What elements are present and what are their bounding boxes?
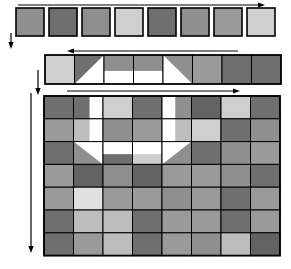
- top-square-2[interactable]: [49, 8, 77, 36]
- grid-cell-r2-c2-left: [74, 119, 90, 142]
- grid-cell-r6-c5: [162, 210, 192, 233]
- grid-cell-r3-c1: [44, 142, 74, 165]
- grid-right-arrow-head: [233, 88, 240, 93]
- grid-cell-r5-c3: [103, 187, 133, 210]
- top-square-3[interactable]: [82, 8, 110, 36]
- grid-cell-r1-c2-right: [90, 96, 103, 119]
- grid-cell-r2-c6: [192, 119, 222, 142]
- grid-cell-r7-c8: [251, 233, 281, 256]
- grid-cell-r2-c2-right: [90, 119, 103, 142]
- grid-cell-r3-c7: [221, 142, 251, 165]
- strip-down-arrow: [35, 70, 40, 95]
- grid-cell-r4-c1: [44, 164, 74, 187]
- grid-cell-r7-c6: [192, 233, 222, 256]
- grid-cell-r3-c4-top: [133, 142, 163, 155]
- grid-cell-r1-c7: [221, 96, 251, 119]
- grid-cell-r4-c3: [103, 164, 133, 187]
- grid-cell-r6-c1: [44, 210, 74, 233]
- grid-cell-r6-c4: [133, 210, 163, 233]
- grid-down-arrow-head: [28, 246, 33, 253]
- grid-cell-r6-c6: [192, 210, 222, 233]
- strip-down-arrow-head: [35, 88, 40, 95]
- grid-cell-r7-c3: [103, 233, 133, 256]
- grid-cell-r2-c4: [133, 119, 163, 142]
- grid-cell-r2-c5-right: [175, 119, 191, 142]
- strip-cell-row: [45, 55, 281, 84]
- top-right-arrow: [18, 2, 265, 7]
- grid-cell-r6-c7: [221, 210, 251, 233]
- top-square-row: [16, 8, 275, 36]
- grid-cell-r4-c5: [162, 164, 192, 187]
- grid-cell-r5-c5: [162, 187, 192, 210]
- grid-cell-r3-c6: [192, 142, 222, 165]
- grid-right-arrow: [67, 88, 240, 93]
- grid-cell-r2-c3: [103, 119, 133, 142]
- grid-cell-r1-c2-left: [74, 96, 90, 119]
- grid-cell-r4-c8: [251, 164, 281, 187]
- grid-cell-r3-c4-bot: [133, 154, 163, 164]
- grid-down-arrow: [28, 93, 33, 253]
- top-square-1[interactable]: [16, 8, 44, 36]
- grid-cell-r2-c1: [44, 119, 74, 142]
- grid-cell-r1-c5-right: [175, 96, 191, 119]
- pixel-grid-svg: [0, 0, 291, 269]
- main-pixel-grid: [44, 96, 280, 256]
- grid-cell-r4-c4: [133, 164, 163, 187]
- grid-cell-r1-c3: [103, 96, 133, 119]
- top-square-5[interactable]: [148, 8, 176, 36]
- grid-cell-r6-c3: [103, 210, 133, 233]
- grid-cell-r1-c4: [133, 96, 163, 119]
- grid-cell-r2-c8: [251, 119, 281, 142]
- grid-cell-r1-c1: [44, 96, 74, 119]
- grid-cell-r6-c2: [74, 210, 104, 233]
- strip-left-arrow-head: [67, 48, 74, 53]
- top-square-7[interactable]: [214, 8, 242, 36]
- grid-cell-r5-c4: [133, 187, 163, 210]
- strip-cell-8: [252, 55, 282, 84]
- grid-cell-r7-c7: [221, 233, 251, 256]
- top-down-arrow: [8, 33, 13, 49]
- grid-cell-r5-c7: [221, 187, 251, 210]
- top-down-arrow-head: [8, 42, 13, 49]
- grid-cell-r6-c8: [251, 210, 281, 233]
- grid-cell-r5-c1: [44, 187, 74, 210]
- top-square-8[interactable]: [247, 8, 275, 36]
- grid-cell-r4-c2: [74, 164, 104, 187]
- grid-cell-r5-c2: [74, 187, 104, 210]
- strip-cell-7: [222, 55, 252, 84]
- strip-cell-6: [193, 55, 223, 84]
- grid-cell-r5-c8: [251, 187, 281, 210]
- grid-cell-r5-c6: [192, 187, 222, 210]
- grid-cell-r4-c6: [192, 164, 222, 187]
- grid-cell-r7-c5: [162, 233, 192, 256]
- strip-cell-3-top: [104, 55, 134, 71]
- strip-cell-4-bot: [134, 71, 164, 84]
- strip-cell-1: [45, 55, 75, 84]
- grid-cell-r7-c2: [74, 233, 104, 256]
- grid-cell-r3-c8: [251, 142, 281, 165]
- grid-cell-r1-c5-left: [162, 96, 175, 119]
- grid-cell-r1-c6: [192, 96, 222, 119]
- strip-cell-4-top: [134, 55, 164, 71]
- grid-cell-r2-c5-left: [162, 119, 175, 142]
- grid-cell-r2-c7: [221, 119, 251, 142]
- grid-cell-r3-c3-top: [103, 142, 133, 155]
- strip-cell-3-bot: [104, 71, 134, 84]
- top-right-arrow-head: [258, 2, 265, 7]
- grid-cell-r4-c7: [221, 164, 251, 187]
- grid-cell-r7-c1: [44, 233, 74, 256]
- top-square-4[interactable]: [115, 8, 143, 36]
- grid-cell-r7-c4: [133, 233, 163, 256]
- diagram-canvas: [0, 0, 291, 269]
- grid-cell-r3-c3-bot: [103, 154, 133, 164]
- strip-left-arrow: [67, 48, 238, 53]
- grid-cell-r1-c8: [251, 96, 281, 119]
- top-square-6[interactable]: [181, 8, 209, 36]
